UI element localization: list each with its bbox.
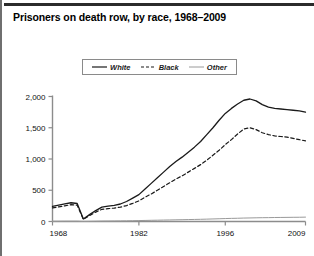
x-tick-label: 1968 <box>50 229 68 238</box>
y-tick-label: 1,000 <box>25 155 46 164</box>
x-axis: 1968198219962009 <box>50 222 307 238</box>
series-line-other <box>53 217 306 221</box>
x-tick-label: 2009 <box>288 229 306 238</box>
series-line-black <box>53 128 306 220</box>
y-tick-label: 2,000 <box>25 93 46 102</box>
series-line-white <box>53 99 306 219</box>
y-axis: 05001,0001,5002,000 <box>25 93 52 227</box>
chart-figure: Prisoners on death row, by race, 1968–20… <box>0 0 314 256</box>
y-tick-label: 0 <box>41 218 46 227</box>
y-tick-label: 1,500 <box>25 124 46 133</box>
y-tick-label: 500 <box>32 186 46 195</box>
chart-series-group <box>53 99 306 221</box>
chart-plot: 05001,0001,5002,000 1968198219962009 <box>2 0 314 256</box>
x-tick-label: 1996 <box>216 229 234 238</box>
x-tick-label: 1982 <box>130 229 148 238</box>
